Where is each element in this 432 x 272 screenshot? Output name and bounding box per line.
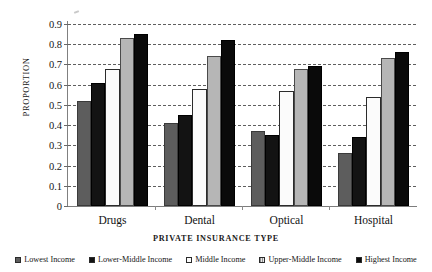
y-axis-tick [64, 24, 68, 25]
x-axis-category-label: Hospital [354, 214, 393, 226]
bar [192, 89, 206, 206]
bar [366, 97, 380, 206]
bar [265, 135, 279, 206]
y-axis-tick [64, 125, 68, 126]
x-axis-category-label: Dental [184, 214, 215, 226]
bar [352, 137, 366, 206]
y-axis-tick-label: 0.2 [49, 160, 62, 171]
y-axis-tick-label: 0 [57, 201, 62, 212]
y-axis-tick [64, 105, 68, 106]
y-axis-tick [64, 206, 68, 207]
gridline [68, 24, 416, 25]
bar [279, 91, 293, 206]
y-axis-tick-label: 0.1 [49, 180, 62, 191]
bar [221, 40, 235, 206]
legend-swatch-icon [89, 257, 95, 263]
y-axis-tick-label: 0.9 [49, 19, 62, 30]
y-axis-tick [64, 166, 68, 167]
y-axis-tick [64, 186, 68, 187]
y-axis-tick [64, 85, 68, 86]
bar [338, 153, 352, 206]
legend-swatch-icon [356, 257, 362, 263]
bar [91, 83, 105, 206]
legend-item[interactable]: Upper-Middle Income [259, 255, 341, 264]
bar [294, 69, 308, 207]
x-axis-category-label: Optical [270, 214, 304, 226]
bar [164, 123, 178, 206]
bar [77, 101, 91, 206]
bar [381, 58, 395, 206]
x-axis-tick [242, 206, 243, 210]
bar [105, 69, 119, 207]
legend-item[interactable]: Lowest Income [15, 255, 75, 264]
bar-chart-figure: PROPORTION 00.10.20.30.40.50.60.70.80.9 … [0, 0, 432, 272]
y-axis-title: PROPORTION [21, 27, 31, 147]
legend-label: Middle Income [195, 255, 245, 264]
legend-item[interactable]: Lower-Middle Income [89, 255, 172, 264]
legend-item[interactable]: Middle Income [186, 255, 245, 264]
bar [308, 66, 322, 206]
y-axis-tick-label: 0.3 [49, 140, 62, 151]
bar [120, 38, 134, 206]
legend-item[interactable]: Highest Income [356, 255, 417, 264]
legend-swatch-icon [15, 257, 21, 263]
x-axis-title: PRIVATE INSURANCE TYPE [0, 234, 432, 243]
legend-label: Upper-Middle Income [268, 255, 341, 264]
x-axis-tick [329, 206, 330, 210]
y-axis-tick-label: 0.4 [49, 120, 62, 131]
legend-swatch-icon [186, 257, 192, 263]
bar [251, 131, 265, 206]
page-speck-artifact [74, 10, 79, 14]
y-axis-tick-label: 0.5 [49, 99, 62, 110]
legend-label: Lower-Middle Income [98, 255, 172, 264]
legend-label: Highest Income [365, 255, 417, 264]
x-axis-category-label: Drugs [98, 214, 126, 226]
y-axis-tick-label: 0.7 [49, 59, 62, 70]
bar [134, 34, 148, 206]
y-axis-tick [64, 44, 68, 45]
y-axis-tick-label: 0.6 [49, 79, 62, 90]
y-axis-line [67, 21, 68, 206]
bar [207, 56, 221, 206]
bar [395, 52, 409, 206]
x-axis-tick [155, 206, 156, 210]
plot-area: 00.10.20.30.40.50.60.70.80.9 DrugsDental… [68, 24, 416, 206]
y-axis-tick-label: 0.8 [49, 39, 62, 50]
y-axis-tick [64, 64, 68, 65]
y-axis-tick [64, 145, 68, 146]
legend-label: Lowest Income [24, 255, 75, 264]
chart-legend: Lowest IncomeLower-Middle IncomeMiddle I… [0, 255, 432, 264]
legend-swatch-icon [259, 257, 265, 263]
bar [178, 115, 192, 206]
